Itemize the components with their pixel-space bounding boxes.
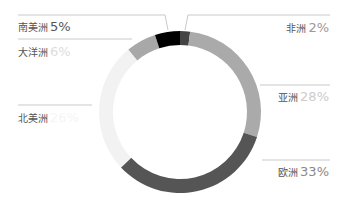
label-oceania: 大洋洲6% [18, 44, 71, 59]
slice-1 [188, 32, 261, 137]
slice-2 [121, 133, 257, 193]
slice-0 [180, 31, 190, 46]
label-africa: 非洲2% [286, 20, 329, 35]
slice-5 [155, 31, 180, 48]
label-asia: 亚洲28% [278, 89, 329, 104]
label-europe: 欧洲33% [278, 164, 329, 179]
slice-3 [99, 50, 137, 168]
label-south-america: 南美洲5% [18, 19, 71, 34]
label-north-america: 北美洲26% [18, 110, 79, 125]
